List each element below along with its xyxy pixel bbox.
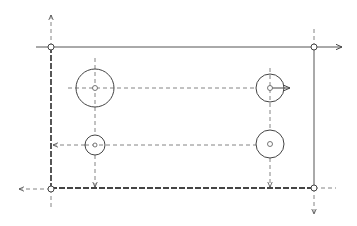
hole-top-left-center [93, 86, 98, 91]
corner-node-top-left [48, 44, 54, 50]
plate-diagram [0, 0, 357, 226]
hole-bottom-left-center [93, 143, 97, 147]
corner-node-top-right [311, 44, 317, 50]
corner-node-bottom-right [311, 185, 317, 191]
corner-node-bottom-left [48, 186, 54, 192]
hole-bottom-right-center [268, 142, 273, 147]
hole-top-right-center [268, 86, 273, 91]
